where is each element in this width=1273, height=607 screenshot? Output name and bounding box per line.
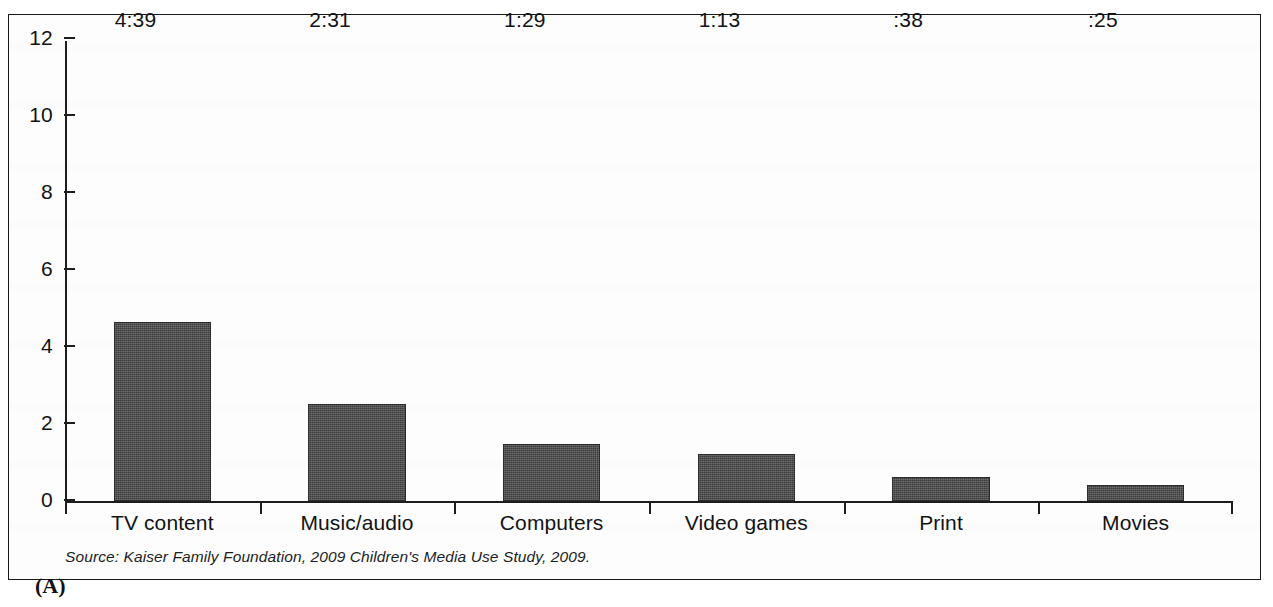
bar-value-label: 4:39 xyxy=(115,8,157,32)
bar: 2:31 xyxy=(308,404,405,501)
bar-group: 4:39TV content xyxy=(114,39,211,501)
y-tick-label: 10 xyxy=(29,103,53,127)
source-note: Source: Kaiser Family Foundation, 2009 C… xyxy=(65,548,590,566)
bar-group: 1:13Video games xyxy=(698,39,795,501)
x-category-label: Music/audio xyxy=(300,511,413,535)
y-tick-mark xyxy=(64,422,75,424)
y-tick-mark xyxy=(64,499,75,501)
y-tick-label: 8 xyxy=(41,180,53,204)
y-tick: 12 xyxy=(65,37,76,39)
y-axis-line xyxy=(65,41,67,503)
x-tick-mark xyxy=(454,503,456,514)
bar-group: :25Movies xyxy=(1087,39,1184,501)
bar-group: 1:29Computers xyxy=(503,39,600,501)
y-tick-label: 4 xyxy=(41,334,53,358)
bar: 1:29 xyxy=(503,444,600,501)
y-tick-mark xyxy=(64,345,75,347)
y-tick-label: 0 xyxy=(41,488,53,512)
y-tick: 8 xyxy=(65,191,76,193)
bar: :25 xyxy=(1087,485,1184,501)
y-tick-mark xyxy=(64,114,75,116)
bar-value-label: 2:31 xyxy=(309,8,351,32)
bar: 1:13 xyxy=(698,454,795,501)
y-tick: 6 xyxy=(65,268,76,270)
y-tick: 10 xyxy=(65,114,76,116)
x-category-label: Movies xyxy=(1102,511,1169,535)
x-category-label: Print xyxy=(919,511,963,535)
bar-value-label: 1:29 xyxy=(504,8,546,32)
y-tick-label: 6 xyxy=(41,257,53,281)
bar: :38 xyxy=(892,477,989,501)
x-category-label: Computers xyxy=(500,511,604,535)
bar-group: 2:31Music/audio xyxy=(308,39,405,501)
y-tick-label: 2 xyxy=(41,411,53,435)
y-tick-label: 12 xyxy=(29,26,53,50)
y-tick-mark xyxy=(64,268,75,270)
bar-group: :38Print xyxy=(892,39,989,501)
bar-chart-plot-area: 024681012 4:39TV content2:31Music/audio1… xyxy=(65,41,1233,503)
y-tick-mark xyxy=(64,191,75,193)
x-tick-mark xyxy=(844,503,846,514)
x-tick-mark xyxy=(649,503,651,514)
panel-label: (A) xyxy=(35,573,66,599)
x-tick-mark xyxy=(1038,503,1040,514)
bar-value-label: 1:13 xyxy=(699,8,741,32)
figure-frame: 024681012 4:39TV content2:31Music/audio1… xyxy=(8,14,1261,580)
x-tick-mark xyxy=(260,503,262,514)
y-tick-mark xyxy=(64,37,75,39)
bar-value-label: :38 xyxy=(893,8,923,32)
x-category-label: Video games xyxy=(685,511,808,535)
x-category-label: TV content xyxy=(111,511,214,535)
bar: 4:39 xyxy=(114,322,211,501)
x-tick-mark xyxy=(1231,503,1233,514)
y-tick: 4 xyxy=(65,345,76,347)
y-tick: 2 xyxy=(65,422,76,424)
x-tick-mark xyxy=(65,503,67,514)
bar-value-label: :25 xyxy=(1088,8,1118,32)
y-tick: 0 xyxy=(65,499,76,501)
